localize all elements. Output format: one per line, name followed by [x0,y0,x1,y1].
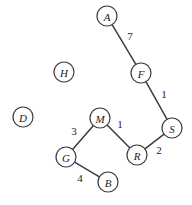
graph-node-d[interactable]: D [13,107,33,127]
edges-layer [73,25,168,177]
edge-weight-g-b: 4 [77,172,83,184]
edge-labels-layer: 712134 [71,30,167,184]
weighted-graph-diagram: 712134 AHFDMSGRB [0,0,192,205]
node-label-a: A [103,11,111,23]
nodes-layer: AHFDMSGRB [13,6,182,192]
edge-weight-m-g: 3 [71,125,77,137]
node-label-d: D [18,112,27,124]
edge-weight-a-f: 7 [127,30,133,42]
node-label-g: G [62,152,70,164]
graph-node-s[interactable]: S [162,118,182,138]
graph-node-g[interactable]: G [56,147,76,167]
graph-node-m[interactable]: M [90,108,110,128]
graph-node-h[interactable]: H [54,62,74,82]
edge-weight-s-r: 2 [156,144,162,156]
node-label-m: M [94,113,105,125]
graph-canvas: 712134 AHFDMSGRB [0,0,192,205]
graph-node-b[interactable]: B [98,172,118,192]
graph-node-a[interactable]: A [97,6,117,26]
node-label-s: S [169,123,175,135]
node-label-f: F [137,68,145,80]
node-label-h: H [59,67,69,79]
node-label-r: R [133,150,141,162]
node-label-b: B [105,177,112,189]
edge-weight-f-s: 1 [161,88,167,100]
edge-weight-m-r: 1 [117,118,123,130]
graph-node-r[interactable]: R [127,145,147,165]
graph-node-f[interactable]: F [131,63,151,83]
